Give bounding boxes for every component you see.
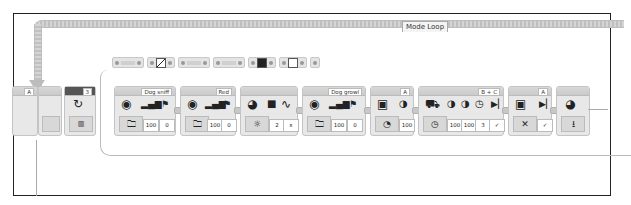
- param-group[interactable]: [213, 57, 245, 68]
- block-header: [241, 87, 297, 96]
- dot-icon: [181, 61, 185, 65]
- dot-icon: [313, 61, 317, 65]
- sound-block[interactable]: Red ◉ ▂▄▆ ⚑ 🗀 100 0: [180, 86, 236, 136]
- sound-block[interactable]: Dog sniff ◉ ▂▄▆ ⚑ 🗀 100 0: [114, 86, 176, 136]
- volume-value[interactable]: 100: [331, 119, 347, 132]
- play-type-icon: ⚑: [223, 97, 231, 111]
- pulse-value[interactable]: x: [283, 119, 299, 132]
- timer-icon: ◷: [475, 97, 484, 111]
- motor-block-partial[interactable]: A: [12, 86, 38, 136]
- dot-icon: [238, 61, 242, 65]
- mode-selector[interactable]: [42, 116, 60, 132]
- dot-icon: [137, 61, 141, 65]
- move-tank-block[interactable]: B + C ⛟ ◑ ◑ ◷ ▶▏ ◷ 100 100 3 ✓: [418, 86, 504, 136]
- brake-value[interactable]: ✓: [489, 119, 505, 132]
- param-group[interactable]: [178, 57, 210, 68]
- pulse-icon: ∿: [281, 97, 291, 111]
- mode-selector[interactable]: 🗀: [307, 116, 331, 132]
- brick-icon: ◕: [565, 97, 575, 111]
- mode-selector[interactable]: ✕: [513, 116, 537, 132]
- play-type-value[interactable]: 0: [159, 119, 175, 132]
- bar: [187, 61, 201, 65]
- dark-box-icon: [257, 58, 267, 68]
- dot-icon: [216, 61, 220, 65]
- mode-selector[interactable]: ☼: [245, 116, 269, 132]
- port-selector[interactable]: B + C: [478, 88, 500, 96]
- speaker-icon: ◉: [187, 97, 197, 111]
- dot-icon: [203, 61, 207, 65]
- speaker-icon: ◉: [309, 97, 319, 111]
- wait-block[interactable]: [38, 86, 62, 136]
- slash-icon: [156, 58, 166, 68]
- play-type-value[interactable]: 0: [347, 119, 363, 132]
- dot-icon: [282, 61, 286, 65]
- brake-value[interactable]: ✓: [537, 119, 553, 132]
- medium-motor-icon: ▣: [515, 97, 526, 111]
- mode-selector[interactable]: ⭳: [561, 116, 585, 132]
- tank-icon: ⛟: [425, 97, 440, 111]
- color-icon: ■: [267, 97, 276, 111]
- end-wire: [588, 109, 608, 110]
- mode-selector[interactable]: 🗀: [185, 116, 209, 132]
- dot-icon: [150, 61, 154, 65]
- volume-icon: ▂▄▆: [329, 97, 350, 111]
- speaker-icon: ◉: [121, 97, 131, 111]
- block-header: [557, 87, 589, 96]
- loop-mode-selector[interactable]: ▥: [69, 116, 93, 132]
- brick-status-light-reset-block[interactable]: ◕ ⭳: [556, 86, 590, 136]
- dot-icon: [115, 61, 119, 65]
- loop-start-block[interactable]: 3 ↻ ▥: [64, 86, 96, 136]
- speed-icon: ◑: [399, 97, 408, 111]
- loop-parameters-row: [112, 57, 320, 68]
- volume-value[interactable]: 100: [143, 119, 159, 132]
- dot-icon: [300, 61, 304, 65]
- sequence-wire: [36, 140, 37, 196]
- param-group[interactable]: [147, 57, 175, 68]
- medium-motor-icon: ▣: [377, 97, 388, 111]
- medium-motor-block[interactable]: A ▣ ◑ ◔ 100: [370, 86, 414, 136]
- brick-status-light-block[interactable]: ◕ ■ ∿ ☼ 2 x: [240, 86, 298, 136]
- bar: [222, 61, 236, 65]
- dot-icon: [168, 61, 172, 65]
- bar: [121, 61, 135, 65]
- loop-icon: ↻: [73, 97, 83, 111]
- dot-icon: [251, 61, 255, 65]
- medium-motor-off-block[interactable]: A ▣ ▶▏ ✕ ✓: [508, 86, 552, 136]
- port-label: A: [24, 88, 34, 96]
- play-type-icon: ⚑: [161, 97, 169, 111]
- port-selector[interactable]: A: [538, 88, 548, 96]
- param-group[interactable]: [248, 57, 276, 68]
- mode-selector[interactable]: ◷: [423, 116, 447, 132]
- param-group[interactable]: [279, 57, 307, 68]
- port-selector[interactable]: A: [400, 88, 410, 96]
- dot-icon: [269, 61, 273, 65]
- file-name[interactable]: Dog sniff: [141, 88, 172, 96]
- outer-loop-wire-top: [34, 20, 624, 28]
- brick-icon: ◕: [247, 97, 257, 111]
- white-box-icon: [288, 58, 298, 68]
- power-value[interactable]: 100: [399, 119, 415, 132]
- loop-count: 3: [83, 88, 93, 96]
- block-header: [39, 87, 61, 96]
- param-group[interactable]: [310, 57, 320, 68]
- left-speed-icon: ◑: [447, 97, 456, 111]
- play-type-icon: ⚑: [349, 97, 357, 111]
- volume-icon: ▂▄▆: [141, 97, 162, 111]
- mode-selector[interactable]: ◔: [375, 116, 399, 132]
- sound-block[interactable]: Dog growl ◉ ▂▄▆ ⚑ 🗀 100 0: [302, 86, 366, 136]
- param-group[interactable]: [112, 57, 144, 68]
- right-speed-icon: ◑: [461, 97, 470, 111]
- loop-label[interactable]: Mode Loop: [402, 21, 448, 32]
- play-type-value[interactable]: 0: [221, 119, 237, 132]
- file-name[interactable]: Dog growl: [328, 88, 362, 96]
- outer-loop-wire-left: [34, 24, 42, 86]
- mode-selector[interactable]: 🗀: [119, 116, 143, 132]
- file-name[interactable]: Red: [216, 88, 232, 96]
